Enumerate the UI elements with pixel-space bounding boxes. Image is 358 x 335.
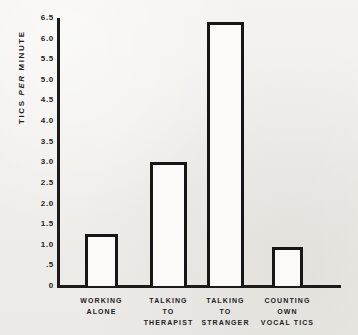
chart-figure: 0.51.01.52.02.53.03.54.04.55.05.56.06.5 … — [0, 0, 358, 335]
x-category-label: COUNTINGOWNVOCAL TICS — [243, 295, 333, 328]
plot-area: 0.51.01.52.02.53.03.54.04.55.05.56.06.5 … — [0, 0, 358, 335]
bar — [150, 162, 187, 286]
bar — [272, 247, 303, 286]
y-axis-line — [57, 18, 60, 288]
y-tick-label: 1.5 — [14, 220, 54, 228]
y-tick-label: 3.0 — [14, 158, 54, 166]
bar — [207, 22, 244, 286]
y-tick-label: 0 — [14, 282, 54, 290]
y-tick-label: 2.5 — [14, 179, 54, 187]
y-axis-title: TICS PER MINUTE — [18, 108, 26, 124]
y-tick-label: 1.0 — [14, 241, 54, 249]
y-tick-label: .5 — [14, 261, 54, 269]
y-tick-label: 3.5 — [14, 138, 54, 146]
y-tick-label: 2.0 — [14, 200, 54, 208]
y-tick-label: 6.5 — [14, 14, 54, 22]
bar — [85, 234, 118, 286]
